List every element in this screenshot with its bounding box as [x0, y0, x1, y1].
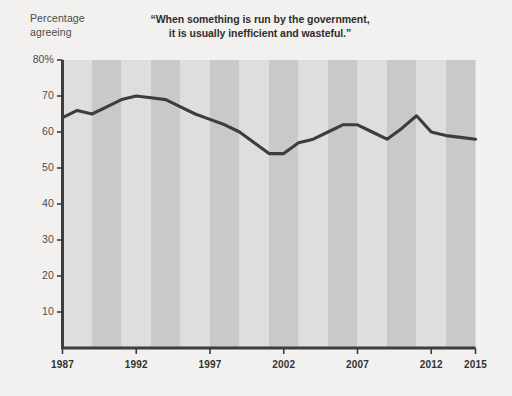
y-tick-label-40: 40 — [20, 197, 54, 209]
y-tick-label-70: 70 — [20, 89, 54, 101]
y-tick-label-10: 10 — [20, 305, 54, 317]
x-tick-label-2002: 2002 — [254, 359, 314, 370]
y-tick-label-30: 30 — [20, 233, 54, 245]
x-tick-label-1992: 1992 — [106, 359, 166, 370]
chart-container: Percentage agreeing “When something is r… — [0, 0, 512, 396]
y-tick-label-50: 50 — [20, 161, 54, 173]
plot-background-bands — [63, 60, 476, 348]
y-tick-label-20: 20 — [20, 269, 54, 281]
y-tick-label-60: 60 — [20, 125, 54, 137]
x-tick-label-2015: 2015 — [446, 359, 506, 370]
line-chart-svg — [0, 0, 512, 396]
x-tick-label-1997: 1997 — [180, 359, 240, 370]
y-tick-label-80: 80% — [20, 53, 54, 65]
x-tick-label-2007: 2007 — [328, 359, 388, 370]
x-tick-label-1987: 1987 — [33, 359, 93, 370]
plot-area: 80%70605040302010 1987199219972002200720… — [0, 0, 512, 396]
